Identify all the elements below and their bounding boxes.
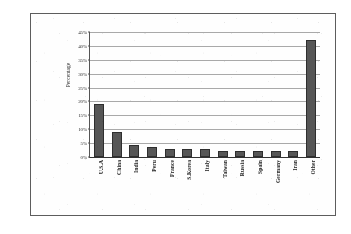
x-axis-label: S.Korea [186, 160, 192, 180]
y-axis-tick-label: 15% [78, 113, 87, 118]
bar-germany [271, 151, 281, 157]
bars-group [90, 32, 320, 157]
x-axis-label: France [169, 160, 175, 177]
x-label-slot: Russia [231, 160, 249, 220]
bar-slot [232, 32, 250, 157]
x-axis-label: China [116, 160, 122, 175]
bar-india [129, 145, 139, 158]
bar-china [112, 132, 122, 157]
bar-russia [235, 151, 245, 157]
x-axis-label: Iran [292, 160, 298, 171]
y-axis-tick-label: 20% [78, 99, 87, 104]
bar-italy [200, 149, 210, 157]
x-label-slot: U.S.A [89, 160, 107, 220]
x-label-slot: Iran [284, 160, 302, 220]
bar-other [306, 40, 316, 157]
x-label-slot: Taiwan [213, 160, 231, 220]
y-axis-tick-label: 5% [81, 141, 87, 146]
x-label-slot: Germany [266, 160, 284, 220]
bar-slot [90, 32, 108, 157]
bar-s-korea [182, 149, 192, 157]
plot-area: 45%40%35%30%25%20%15%10%5%0% [89, 32, 320, 158]
x-axis-label: Other [310, 160, 316, 175]
x-axis-label: Spain [257, 160, 263, 174]
bar-slot [143, 32, 161, 157]
y-axis-tick-label: 30% [78, 71, 87, 76]
bar-slot [302, 32, 320, 157]
x-axis-label: Russia [239, 160, 245, 176]
x-label-slot: Peru [142, 160, 160, 220]
x-axis-label: Germany [275, 160, 281, 183]
y-axis-tick-label: 45% [78, 30, 87, 35]
x-label-slot: Spain [248, 160, 266, 220]
x-label-slot: China [107, 160, 125, 220]
x-axis-label: Taiwan [222, 160, 228, 178]
bar-slot [249, 32, 267, 157]
y-axis-title: Percentage [65, 35, 71, 115]
gridline [90, 157, 320, 158]
x-axis-labels-group: U.S.AChinaIndiaPeruFranceS.KoreaItalyTai… [89, 160, 319, 220]
bar-slot [196, 32, 214, 157]
bar-taiwan [218, 151, 228, 157]
bar-slot [214, 32, 232, 157]
bar-spain [253, 151, 263, 157]
x-label-slot: S.Korea [177, 160, 195, 220]
bar-slot [267, 32, 285, 157]
bar-slot [125, 32, 143, 157]
x-label-slot: Italy [195, 160, 213, 220]
y-axis-tick-label: 10% [78, 127, 87, 132]
x-axis-label: Italy [204, 160, 210, 171]
bar-slot [178, 32, 196, 157]
x-axis-label: Peru [151, 160, 157, 172]
y-axis-tick-label: 0% [81, 155, 87, 160]
bar-u-s-a [94, 104, 104, 157]
bar-iran [288, 151, 298, 157]
y-axis-tick-label: 25% [78, 85, 87, 90]
x-label-slot: Other [301, 160, 319, 220]
figure-frame: Percentage 45%40%35%30%25%20%15%10%5%0% … [30, 13, 336, 216]
y-axis-tick-label: 40% [78, 43, 87, 48]
y-axis-tick-label: 35% [78, 57, 87, 62]
x-label-slot: India [124, 160, 142, 220]
bar-slot [108, 32, 126, 157]
x-label-slot: France [160, 160, 178, 220]
x-axis-label: India [133, 160, 139, 173]
bar-slot [285, 32, 303, 157]
bar-slot [161, 32, 179, 157]
bar-peru [147, 147, 157, 157]
bar-france [165, 149, 175, 157]
x-axis-label: U.S.A [98, 160, 104, 174]
